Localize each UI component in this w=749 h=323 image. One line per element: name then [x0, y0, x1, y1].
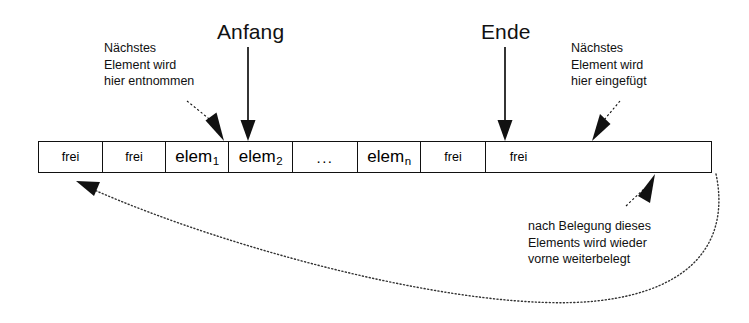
- annotation-wrap-line-1: nach Belegung dieses: [528, 218, 651, 235]
- array-cell-label: frei: [444, 150, 461, 164]
- array-cell-3: elem1: [166, 142, 229, 172]
- arrow-down-icon-anfang: [241, 47, 256, 141]
- array-cell-2: frei: [103, 142, 166, 172]
- array-cell-label: frei: [125, 150, 142, 164]
- array-cell-1: frei: [39, 142, 103, 172]
- array-cell-label: elem: [175, 147, 212, 167]
- annotation-insert-line-2: Element wird: [571, 57, 647, 74]
- annotation-insert-line-3: hier eingefügt: [571, 73, 647, 90]
- ring-buffer-diagram: Anfang Ende Nächstes Element wird hier e…: [0, 0, 749, 323]
- array-cell-6: elemn: [358, 142, 421, 172]
- arrow-down-icon-ende: [498, 47, 513, 141]
- pointer-label-anfang: Anfang: [217, 20, 284, 43]
- array-cell-4: elem2: [229, 142, 293, 172]
- arrow-diagonal-icon-insert: [592, 101, 620, 141]
- array-cell-subscript: n: [405, 155, 411, 167]
- array-cell-8: frei: [486, 142, 551, 172]
- annotation-remove-line-2: Element wird: [104, 57, 194, 74]
- array-cell-subscript: 2: [276, 155, 282, 167]
- array-cell-7: frei: [421, 142, 486, 172]
- annotation-wrap-line-3: vorne weiterbelegt: [528, 251, 651, 268]
- annotation-wrap-line-2: Elements wird wieder: [528, 235, 651, 252]
- annotation-remove-line-1: Nächstes: [104, 40, 194, 57]
- annotation-remove-line-3: hier entnommen: [104, 73, 194, 90]
- array-cell-5: ...: [293, 142, 358, 172]
- array-cell-label: elem: [367, 147, 404, 167]
- annotation-insert: Nächstes Element wird hier eingefügt: [571, 40, 647, 90]
- array-cells-container: freifreielem1elem2...elemnfreifrei: [38, 141, 712, 173]
- arrow-diagonal-icon-wrap: [626, 174, 655, 206]
- annotation-insert-line-1: Nächstes: [571, 40, 647, 57]
- array-cell-subscript: 1: [213, 155, 219, 167]
- array-cell-label: elem: [239, 147, 276, 167]
- annotation-remove: Nächstes Element wird hier entnommen: [104, 40, 194, 90]
- pointer-label-ende: Ende: [481, 20, 530, 43]
- array-cell-label: frei: [510, 150, 527, 164]
- array-cell-label: ...: [316, 149, 333, 166]
- annotation-wrap-around: nach Belegung dieses Elements wird wiede…: [528, 218, 651, 268]
- arrow-diagonal-icon-remove: [187, 101, 224, 141]
- array-cell-label: frei: [62, 150, 79, 164]
